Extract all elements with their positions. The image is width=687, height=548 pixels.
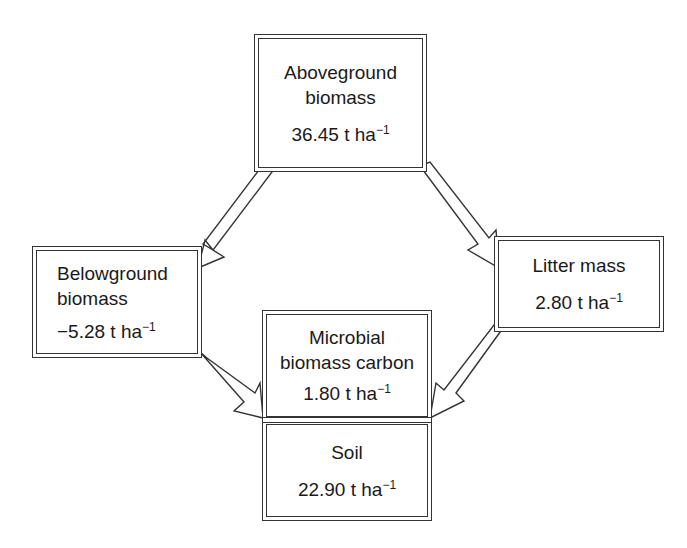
microbial-label-1: Microbial [309, 325, 385, 350]
litter-label: Litter mass [533, 253, 626, 278]
microbial-value: 1.80 t ha−1 [303, 377, 391, 406]
microbial-label-2: biomass carbon [280, 350, 414, 375]
aboveground-biomass-inner: Aboveground biomass 36.45 t ha−1 [258, 38, 423, 168]
litter-value: 2.80 t ha−1 [535, 286, 623, 315]
aboveground-value: 36.45 t ha−1 [291, 118, 389, 147]
arrow-aboveground-to-belowground [198, 166, 272, 268]
aboveground-biomass-box: Aboveground biomass 36.45 t ha−1 [254, 34, 427, 172]
aboveground-label-2: biomass [305, 85, 376, 110]
litter-mass-inner: Litter mass 2.80 t ha−1 [498, 240, 660, 328]
microbial-biomass-carbon-inner: Microbial biomass carbon 1.80 t ha−1 [266, 314, 428, 417]
belowground-biomass-box: Belowground biomass −5.28 t ha−1 [32, 246, 202, 358]
soil-inner: Soil 22.90 t ha−1 [266, 424, 428, 517]
soil-label: Soil [331, 440, 363, 465]
belowground-biomass-inner: Belowground biomass −5.28 t ha−1 [36, 250, 198, 354]
microbial-soil-divider [263, 417, 431, 423]
arrow-belowground-to-soil [200, 352, 263, 418]
aboveground-label-1: Aboveground [284, 60, 397, 85]
arrow-litter-to-soil [430, 325, 503, 418]
belowground-label-1: Belowground [57, 261, 168, 286]
belowground-label-2: biomass [57, 286, 128, 311]
litter-mass-box: Litter mass 2.80 t ha−1 [494, 236, 664, 332]
microbial-soil-box: Microbial biomass carbon 1.80 t ha−1 Soi… [262, 310, 432, 521]
arrow-aboveground-to-litter [420, 162, 499, 268]
soil-value: 22.90 t ha−1 [298, 473, 396, 502]
belowground-value: −5.28 t ha−1 [57, 315, 156, 344]
